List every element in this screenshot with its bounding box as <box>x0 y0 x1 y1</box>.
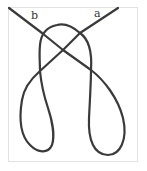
label-end-a: a <box>94 8 101 19</box>
knot-diagram <box>0 0 147 171</box>
label-end-b: b <box>31 10 38 21</box>
rope-strand-b <box>9 8 125 155</box>
rope-strand-a <box>21 8 118 151</box>
